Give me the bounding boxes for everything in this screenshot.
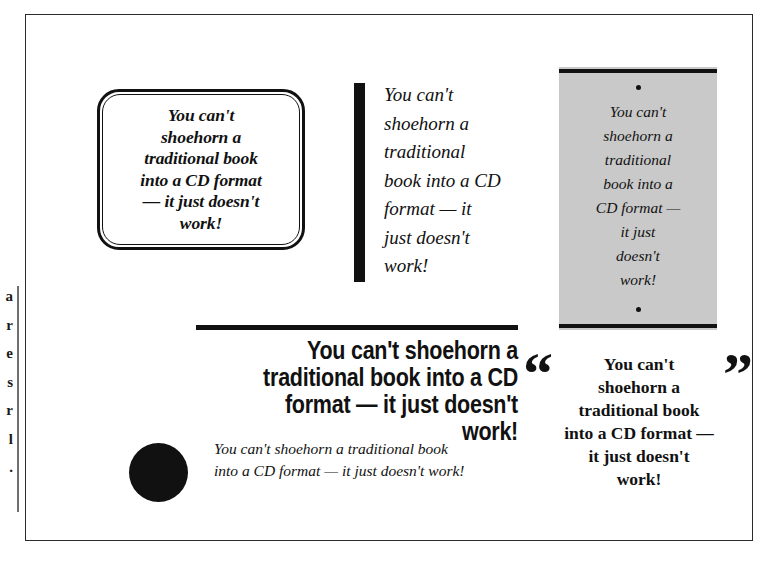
grey-panel-bottom-rule (559, 324, 717, 328)
bullet-dot-icon (636, 307, 641, 312)
page-border-frame: You can't shoehorn a traditional book in… (25, 14, 753, 541)
margin-vertical-rule (17, 286, 19, 512)
pullquote-rounded-box: You can't shoehorn a traditional book in… (97, 89, 305, 250)
headline-top-rule (196, 325, 518, 330)
circle-bullet-quote-text: You can't shoehorn a traditional book in… (214, 438, 469, 482)
scanned-page: a r e s r l . You can't shoehorn a tradi… (0, 0, 780, 562)
pullquote-headline: You can't shoehorn a traditional book in… (196, 325, 518, 445)
bullet-dot-icon (636, 85, 641, 90)
margin-note-text: a r e s r l . (0, 282, 13, 482)
black-circle-icon (129, 443, 188, 502)
grey-panel-quote-text: You can't shoehorn a traditional book in… (567, 100, 709, 292)
rounded-box-quote-text: You can't shoehorn a traditional book in… (132, 105, 269, 234)
rounded-box-inner-border: You can't shoehorn a traditional book in… (102, 94, 300, 245)
margin-note-fragment: a r e s r l . (0, 282, 14, 514)
pullquote-grey-panel: You can't shoehorn a traditional book in… (559, 67, 717, 330)
pullquote-vertical-bar: You can't shoehorn a traditional book in… (354, 81, 529, 286)
grey-panel-top-rule (559, 69, 717, 73)
quotemarks-quote-text: You can't shoehorn a traditional book in… (523, 353, 755, 491)
vertical-rule-bar (354, 83, 365, 282)
pullquote-circle-bullet: You can't shoehorn a traditional book in… (129, 438, 469, 518)
vertical-bar-quote-text: You can't shoehorn a traditional book in… (384, 81, 529, 281)
headline-quote-text: You can't shoehorn a traditional book in… (241, 337, 518, 445)
pullquote-quotemarks: “ ” You can't shoehorn a traditional boo… (523, 351, 755, 491)
